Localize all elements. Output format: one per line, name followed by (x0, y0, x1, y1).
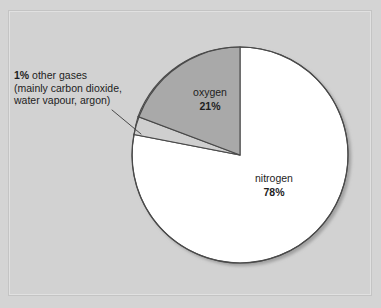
callout-other-gases: 1% other gases (mainly carbon dioxide, w… (14, 69, 146, 107)
slice-label-nitrogen: nitrogen 78% (238, 172, 310, 198)
slice-label-oxygen: oxygen 21% (178, 86, 242, 112)
slice-label-oxygen-name: oxygen (178, 86, 242, 99)
chart-canvas: 1% other gases (mainly carbon dioxide, w… (0, 0, 381, 308)
slice-label-oxygen-percent: 21% (178, 100, 242, 113)
callout-line3-text: water vapour, argon) (14, 94, 110, 106)
slice-label-nitrogen-percent: 78% (238, 186, 310, 199)
callout-line2-text: (mainly carbon dioxide, (14, 82, 122, 94)
slice-label-nitrogen-name: nitrogen (238, 172, 310, 185)
callout-line1-text: other gases (29, 69, 87, 81)
callout-percent: 1% (14, 69, 29, 81)
pie-body (132, 47, 348, 263)
pie-chart (0, 0, 381, 308)
